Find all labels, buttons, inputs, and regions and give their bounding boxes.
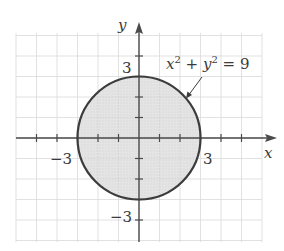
x-tick-label-neg3: −3 (50, 150, 72, 168)
eq-rhs: = 9 (218, 55, 250, 73)
coordinate-plane: y x −3 3 3 −3 x2 + y2 = 9 (0, 0, 284, 251)
y-axis-label: y (117, 16, 127, 34)
equation-pointer-arrow (188, 77, 202, 96)
x-tick-label-3: 3 (203, 150, 213, 168)
x-axis-label: x (264, 144, 273, 162)
y-tick-label-neg3: −3 (110, 208, 132, 226)
circle-graph: y x −3 3 3 −3 x2 + y2 = 9 (0, 0, 284, 251)
y-tick-label-3: 3 (122, 59, 132, 77)
eq-plus: + (181, 55, 203, 73)
equation-label: x2 + y2 = 9 (166, 54, 249, 73)
